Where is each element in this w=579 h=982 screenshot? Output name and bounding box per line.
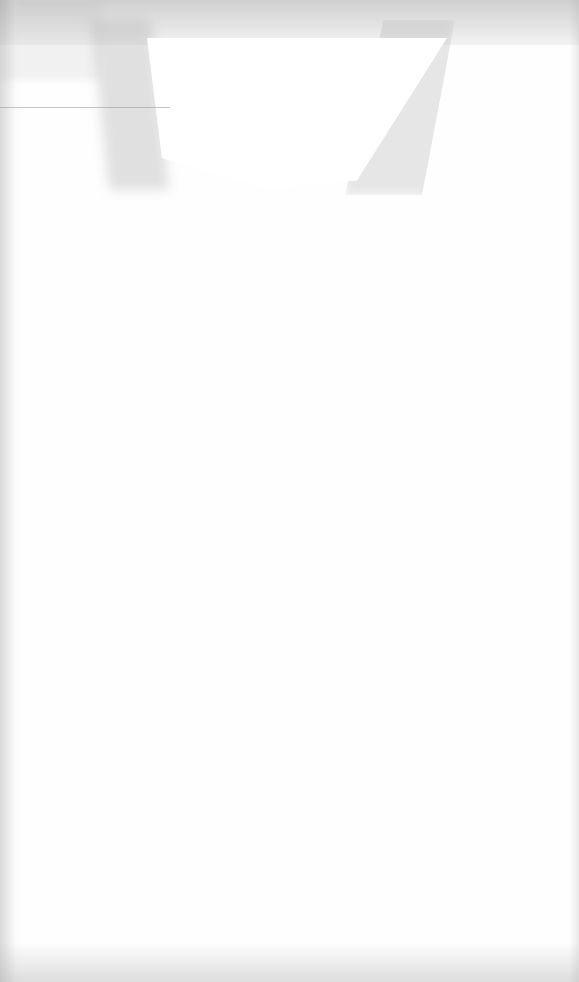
bottom-edge-shadow xyxy=(0,942,579,982)
right-edge-shadow xyxy=(569,0,579,982)
scanned-blank-page: blank xyxy=(0,0,579,982)
left-edge-shadow xyxy=(0,0,22,982)
faint-rule-line xyxy=(0,107,170,108)
